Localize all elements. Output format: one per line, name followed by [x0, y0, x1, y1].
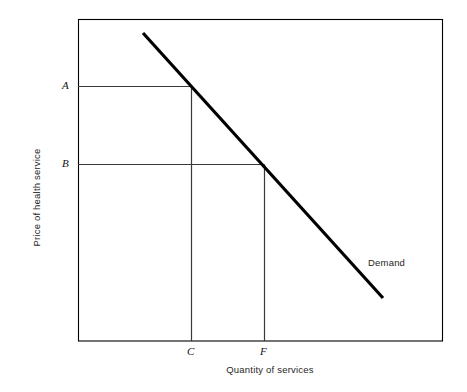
demand-series-label: Demand	[368, 257, 405, 268]
price-b-label: B	[62, 157, 69, 169]
quantity-c-label: C	[187, 345, 194, 357]
chart-background	[0, 0, 467, 392]
quantity-f-label: F	[260, 345, 267, 357]
demand-curve-figure: Price of health service Quantity of serv…	[0, 0, 467, 392]
x-axis-title: Quantity of services	[180, 364, 360, 375]
chart-canvas	[0, 0, 467, 392]
price-a-label: A	[62, 79, 69, 91]
y-axis-title: Price of health service	[31, 118, 42, 278]
